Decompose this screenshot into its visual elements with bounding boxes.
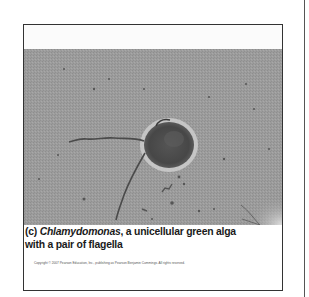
caption-genus: Chlamydomonas	[40, 225, 121, 237]
figure-caption: (c) Chlamydomonas, a unicellular green a…	[25, 225, 264, 250]
figure-header-strip	[24, 25, 282, 49]
page-divider-line	[304, 0, 305, 297]
figure-panel: (c) Chlamydomonas, a unicellular green a…	[23, 24, 283, 291]
caption-line-1: (c) Chlamydomonas, a unicellular green a…	[25, 225, 264, 238]
panel-label: (c)	[25, 225, 37, 237]
caption-line-1-rest: , a unicellular green alga	[120, 225, 235, 237]
caption-line-2: with a pair of flagella	[25, 238, 264, 251]
micrograph-image	[24, 49, 282, 225]
copyright-notice: Copyright © 2007 Pearson Education, Inc.…	[34, 261, 185, 265]
